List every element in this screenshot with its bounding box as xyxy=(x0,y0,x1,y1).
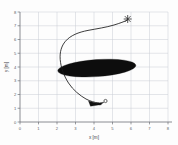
y-axis-title: y [m] xyxy=(4,62,9,72)
trajectory-plot-figure: 0 1 2 3 4 5 6 7 8 0 1 2 3 4 5 xyxy=(0,0,178,145)
plot-canvas: 0 1 2 3 4 5 6 7 8 0 1 2 3 4 5 xyxy=(0,0,178,145)
x-axis-title: x [m] xyxy=(89,135,99,140)
goal-marker-star xyxy=(124,15,131,22)
